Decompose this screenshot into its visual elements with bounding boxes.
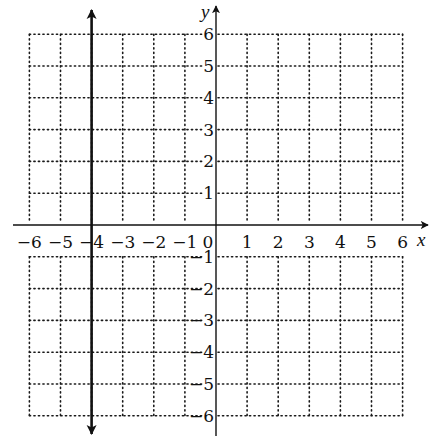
x-tick-label: −4 bbox=[79, 232, 104, 252]
x-tick-label: −2 bbox=[141, 232, 166, 252]
x-tick-label: 6 bbox=[397, 232, 408, 252]
x-tick-label: 4 bbox=[335, 232, 346, 252]
y-tick-label: 6 bbox=[203, 24, 214, 44]
coordinate-plane: −6−5−4−3−2−10123456−6−5−4−3−2−1123456 x … bbox=[0, 0, 437, 441]
x-tick-label: 5 bbox=[366, 232, 377, 252]
y-axis-label: y bbox=[199, 1, 210, 22]
y-tick-label: 5 bbox=[203, 56, 214, 76]
y-tick-label: 1 bbox=[203, 183, 214, 203]
y-tick-label: −5 bbox=[189, 374, 214, 394]
x-axis-label: x bbox=[416, 229, 426, 250]
x-tick-label: 3 bbox=[304, 232, 315, 252]
y-tick-label: 2 bbox=[203, 151, 214, 171]
y-tick-label: −4 bbox=[189, 342, 214, 362]
y-tick-label: −2 bbox=[189, 279, 214, 299]
y-tick-label: −1 bbox=[189, 247, 214, 267]
x-tick-label: 2 bbox=[273, 232, 284, 252]
x-tick-label: −6 bbox=[17, 232, 42, 252]
x-tick-label: 1 bbox=[242, 232, 253, 252]
y-tick-label: −3 bbox=[189, 310, 214, 330]
x-tick-label: −5 bbox=[48, 232, 73, 252]
y-tick-label: −6 bbox=[189, 406, 214, 426]
y-tick-label: 3 bbox=[203, 120, 214, 140]
y-tick-label: 4 bbox=[203, 88, 214, 108]
axes bbox=[13, 6, 428, 436]
x-tick-label: −3 bbox=[110, 232, 135, 252]
